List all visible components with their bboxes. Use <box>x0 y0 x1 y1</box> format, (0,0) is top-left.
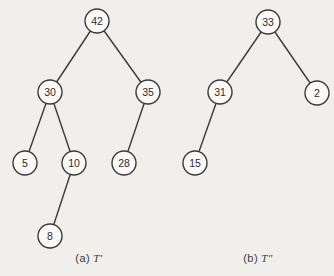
edge-33-2 <box>268 22 317 93</box>
tree-node-label-30: 30 <box>44 86 56 98</box>
tree-node-label-33: 33 <box>262 16 274 28</box>
tree-b-group: 3331215 <box>183 10 329 175</box>
tree-node-label-8: 8 <box>47 230 53 242</box>
caption-a-prefix: (a) <box>75 252 90 264</box>
caption-b-symbol: T″ <box>261 252 273 264</box>
caption-a-symbol: T′ <box>93 252 103 264</box>
tree-node-label-42: 42 <box>91 15 103 27</box>
diagram-canvas: 4230355102883331215 (a)T′ (b)T″ <box>0 0 334 276</box>
caption-b-prefix: (b) <box>243 252 258 264</box>
tree-a-group: 423035510288 <box>13 9 160 248</box>
tree-node-label-35: 35 <box>142 86 154 98</box>
edge-42-30 <box>50 21 97 92</box>
tree-node-label-31: 31 <box>214 86 226 98</box>
tree-node-label-5: 5 <box>22 157 28 169</box>
tree-diagram-svg: 4230355102883331215 <box>0 0 334 276</box>
edge-42-35 <box>97 21 148 92</box>
tree-node-label-15: 15 <box>189 157 201 169</box>
caption-tree-a: (a)T′ <box>75 252 102 264</box>
tree-node-label-28: 28 <box>118 157 130 169</box>
tree-node-label-10: 10 <box>68 157 80 169</box>
edge-33-31 <box>220 22 268 92</box>
tree-node-label-2: 2 <box>314 87 320 99</box>
caption-tree-b: (b)T″ <box>243 252 273 264</box>
